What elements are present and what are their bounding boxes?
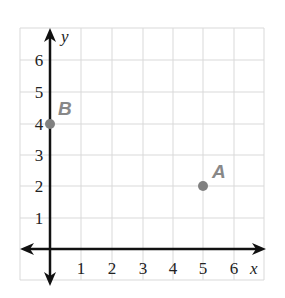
y-tick: 3 <box>35 146 44 165</box>
x-tick: 4 <box>169 259 178 278</box>
x-tick-labels: 1 2 3 4 5 6 <box>77 259 239 278</box>
point-b-label: B <box>58 98 72 119</box>
y-axis <box>44 28 56 286</box>
x-tick: 1 <box>77 259 86 278</box>
coordinate-plane: y x 1 2 3 4 5 6 1 2 3 4 5 6 A B <box>0 0 285 298</box>
x-tick: 5 <box>199 259 208 278</box>
x-tick: 3 <box>139 259 148 278</box>
grid <box>20 28 264 280</box>
x-axis-label: x <box>249 259 258 278</box>
y-tick-labels: 1 2 3 4 5 6 <box>35 51 44 228</box>
y-axis-label: y <box>59 27 69 46</box>
x-tick: 2 <box>108 259 117 278</box>
y-tick: 5 <box>35 83 44 102</box>
y-tick: 6 <box>35 51 44 70</box>
y-tick: 1 <box>35 209 44 228</box>
y-tick: 4 <box>35 115 44 134</box>
x-tick: 6 <box>230 259 239 278</box>
point-a-label: A <box>211 161 226 182</box>
y-tick: 2 <box>35 177 44 196</box>
